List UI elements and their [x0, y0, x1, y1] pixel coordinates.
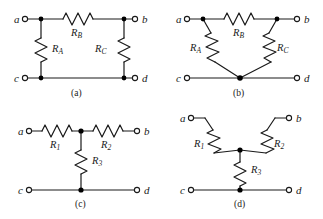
terminal-label-c-panel-d: c	[180, 184, 185, 196]
figure-container: a b c d RB RA RC (a) a b c d RB RA RC (b…	[0, 0, 323, 219]
terminal-label-a-panel-b: a	[176, 13, 182, 25]
terminal-c-panel-d	[188, 187, 193, 192]
terminal-label-d-panel-b: d	[304, 72, 310, 84]
panel-caption-d: (d)	[234, 199, 245, 210]
terminal-a-panel-b	[184, 16, 189, 21]
terminal-label-a-panel-a: a	[14, 13, 20, 25]
junction-dot	[201, 17, 206, 22]
terminal-label-c-panel-c: c	[18, 184, 23, 196]
terminal-label-d-panel-d: d	[296, 184, 302, 196]
junction-dot	[39, 17, 44, 22]
terminal-d-panel-a	[132, 75, 137, 80]
terminal-a-panel-a	[22, 16, 27, 21]
junction-dot	[122, 17, 127, 22]
terminal-label-d-panel-a: d	[142, 72, 148, 84]
terminal-a-panel-c	[26, 128, 31, 133]
terminal-a-panel-d	[188, 115, 193, 120]
junction-dot	[39, 76, 44, 81]
terminal-label-a-panel-c: a	[18, 125, 24, 137]
panel-caption-c: (c)	[75, 199, 86, 210]
terminal-c-panel-b	[184, 75, 189, 80]
terminal-label-c-panel-b: c	[176, 72, 181, 84]
terminal-c-panel-a	[22, 75, 27, 80]
terminal-label-b-panel-a: b	[142, 13, 148, 25]
panel-caption-a: (a)	[71, 88, 82, 99]
terminal-d-panel-c	[134, 187, 139, 192]
terminal-c-panel-c	[26, 187, 31, 192]
junction-dot	[78, 128, 83, 133]
circuit-diagram-svg: a b c d RB RA RC (a) a b c d RB RA RC (b…	[0, 0, 323, 219]
terminal-b-panel-d	[286, 115, 291, 120]
terminal-label-b-panel-c: b	[144, 125, 150, 137]
terminal-label-d-panel-c: d	[144, 184, 150, 196]
terminal-d-panel-b	[294, 75, 299, 80]
junction-dot	[78, 187, 83, 192]
terminal-d-panel-d	[286, 187, 291, 192]
junction-dot	[237, 147, 242, 152]
terminal-label-a-panel-d: a	[180, 112, 186, 124]
junction-dot	[237, 187, 242, 192]
junction-dot	[275, 17, 280, 22]
terminal-b-panel-b	[294, 16, 299, 21]
terminal-label-b-panel-d: b	[296, 112, 302, 124]
figure-background	[0, 0, 323, 219]
terminal-b-panel-a	[132, 16, 137, 21]
junction-dot	[122, 76, 127, 81]
terminal-b-panel-c	[134, 128, 139, 133]
panel-caption-b: (b)	[233, 88, 244, 99]
terminal-label-c-panel-a: c	[14, 72, 19, 84]
terminal-label-b-panel-b: b	[304, 13, 310, 25]
junction-dot	[237, 75, 243, 81]
